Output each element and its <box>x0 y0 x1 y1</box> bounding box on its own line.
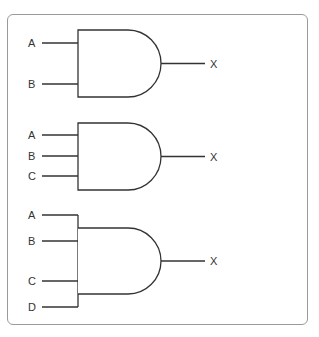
output-label-x: X <box>210 255 218 267</box>
output-label-x: X <box>210 58 218 70</box>
input-label-a: A <box>28 129 36 141</box>
input-label-b: B <box>28 150 35 162</box>
and-gate-2-input: A B X <box>28 30 218 97</box>
input-label-c: C <box>28 170 36 182</box>
and-gate-body <box>78 30 161 97</box>
input-label-b: B <box>28 78 35 90</box>
and-gate-3-input: A B C X <box>28 123 218 190</box>
logic-gates-diagram: A B X A B C X A B C D X <box>0 0 319 337</box>
input-label-b: B <box>28 235 35 247</box>
input-label-a: A <box>28 209 36 221</box>
and-gate-body <box>78 123 161 190</box>
output-label-x: X <box>210 151 218 163</box>
input-label-d: D <box>28 301 36 313</box>
and-gate-body <box>78 228 161 294</box>
input-label-a: A <box>28 37 36 49</box>
and-gate-4-input: A B C D X <box>28 209 218 313</box>
input-label-c: C <box>28 275 36 287</box>
